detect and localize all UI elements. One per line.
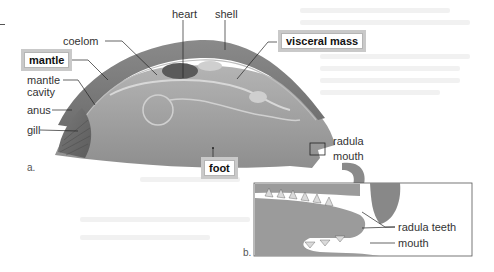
label-heart: heart [172, 8, 197, 20]
label-radula-teeth: radula teeth [398, 221, 456, 233]
label-mantle-cavity-line2: cavity [27, 86, 55, 98]
label-foot: foot [201, 157, 238, 179]
label-visceral-mass: visceral mass [278, 30, 366, 52]
label-coelom: coelom [63, 35, 98, 47]
label-gill: gill [27, 124, 40, 136]
label-mantle: mantle [21, 49, 72, 71]
label-mouth: mouth [333, 150, 364, 162]
heart [162, 63, 198, 79]
label-mantle-cavity-line1: mantle [27, 74, 60, 86]
panel-b-tag: b. [243, 247, 251, 258]
label-shell: shell [215, 8, 238, 20]
label-mouth-b: mouth [398, 237, 429, 249]
label-radula: radula [333, 135, 364, 147]
panel-a-tag: a. [27, 162, 35, 173]
label-anus: anus [27, 104, 51, 116]
